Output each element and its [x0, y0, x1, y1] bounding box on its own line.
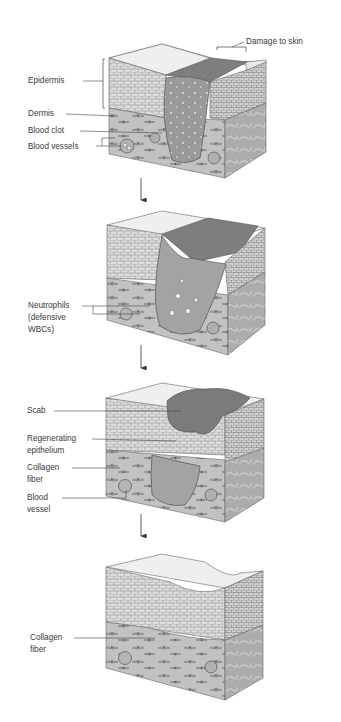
label-epidermis: Epidermis [28, 75, 64, 86]
label-scab: Scab [27, 405, 46, 416]
panel-2-inflammation [82, 211, 265, 355]
label-collagen-healed: Collagen [30, 632, 62, 643]
wound-healing-diagram: Damage to skin Epidermis Dermis Blood cl… [0, 0, 341, 722]
label-regenerating: Regenerating [27, 433, 76, 444]
panel-1-fresh-wound [66, 42, 266, 178]
label-neutrophils-line3: WBCs) [28, 324, 54, 335]
label-fiber: fiber [27, 474, 43, 485]
label-vessel: vessel [27, 504, 50, 515]
label-fiber-healed: fiber [30, 644, 46, 655]
label-collagen: Collagen [27, 462, 59, 473]
label-dermis: Dermis [28, 108, 54, 119]
label-neutrophils: Neutrophils [28, 300, 69, 311]
panel-4-healed [74, 554, 263, 700]
label-epithelium: epithelium [27, 445, 64, 456]
panel-3-repair [54, 383, 264, 522]
label-blood-clot: Blood clot [28, 125, 64, 136]
label-blood-vessels: Blood vessels [28, 141, 79, 152]
label-damage-to-skin: Damage to skin [246, 36, 303, 47]
label-neutrophils-line2: (defensive [28, 312, 66, 323]
label-blood: Blood [27, 492, 48, 503]
